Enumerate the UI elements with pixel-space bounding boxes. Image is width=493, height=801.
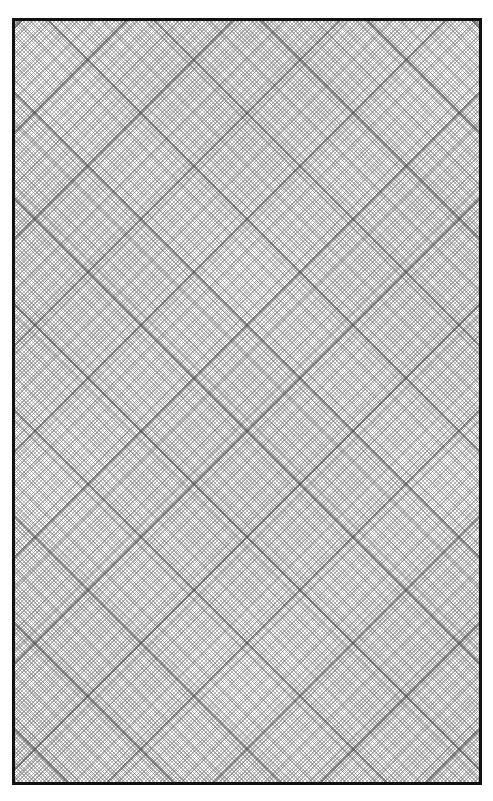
graph-paper-sheet bbox=[12, 18, 482, 785]
major-grid bbox=[15, 21, 479, 782]
